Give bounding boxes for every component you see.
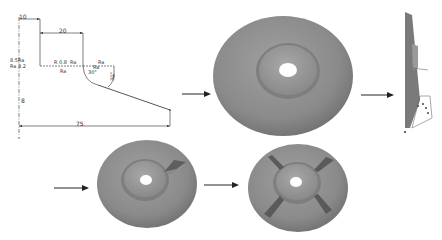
disc-one-rib: [97, 140, 197, 228]
arrow-icon: [182, 91, 211, 97]
process-flow: [0, 0, 442, 240]
arrow-icon: [361, 92, 394, 98]
arrow-icon: [54, 185, 89, 191]
disc-four-ribs: [248, 144, 348, 232]
side-view: [404, 12, 432, 133]
arrow-icon: [204, 182, 239, 188]
revolved-disc: [213, 16, 353, 136]
